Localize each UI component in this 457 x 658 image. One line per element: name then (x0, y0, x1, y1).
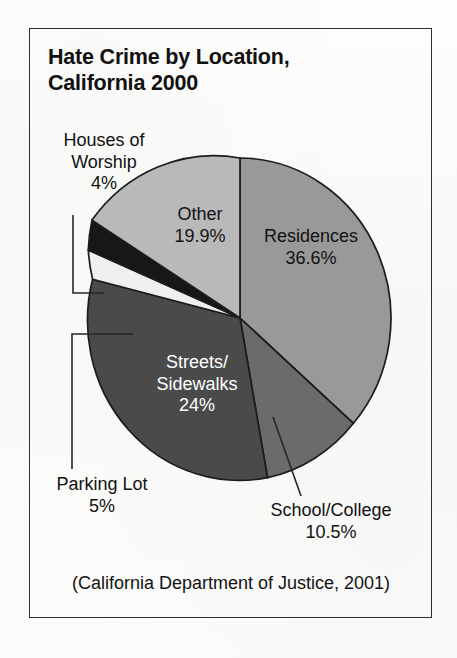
pie-label-worship-value: 4% (36, 173, 172, 195)
pie-label-other-name: Other (144, 204, 256, 226)
pie-chart-figure: Hate Crime by Location, California 2000 (0, 0, 457, 658)
pie-label-school-value: 10.5% (236, 522, 426, 544)
pie-chart-graphic (0, 0, 457, 658)
pie-label-school-line-1: School/College (236, 500, 426, 522)
pie-label-streets-line-2: Sidewalks (132, 374, 262, 396)
pie-label-parking-line-1: Parking Lot (26, 474, 178, 496)
pie-label-residences: Residences 36.6% (244, 226, 378, 269)
pie-label-parking-lot: Parking Lot 5% (26, 474, 178, 517)
pie-label-other-value: 19.9% (144, 226, 256, 248)
pie-label-worship-line-2: Worship (36, 152, 172, 174)
pie-label-streets-sidewalks: Streets/ Sidewalks 24% (132, 352, 262, 417)
pie-label-houses-of-worship: Houses of Worship 4% (36, 130, 172, 195)
pie-label-parking-value: 5% (26, 496, 178, 518)
pie-label-other: Other 19.9% (144, 204, 256, 247)
pie-label-residences-name: Residences (244, 226, 378, 248)
pie-label-streets-value: 24% (132, 395, 262, 417)
source-attribution: (California Department of Justice, 2001) (38, 573, 424, 594)
pie-label-streets-line-1: Streets/ (132, 352, 262, 374)
pie-label-worship-line-1: Houses of (36, 130, 172, 152)
pie-label-residences-value: 36.6% (244, 248, 378, 270)
pie-label-school-college: School/College 10.5% (236, 500, 426, 543)
